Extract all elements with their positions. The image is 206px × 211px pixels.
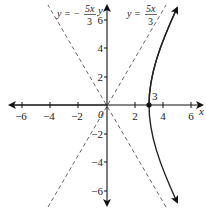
- x-tick-label: 2: [132, 110, 138, 122]
- asym-pos-lhs: y =: [126, 8, 141, 19]
- y-tick-label: −4: [91, 156, 103, 168]
- origin-label: 0: [98, 108, 104, 120]
- x-tick-label: 4: [160, 110, 166, 122]
- y-axis-label: y: [97, 4, 103, 16]
- y-tick-label: −6: [91, 185, 103, 197]
- hyperbola-chart: −6 −4 −2 2 4 6 6 4 2 −2 −4 −6 0 3 x y y …: [0, 0, 206, 211]
- vertex-label: 3: [152, 90, 158, 102]
- chart-svg: −6 −4 −2 2 4 6 6 4 2 −2 −4 −6 0 3 x y y …: [0, 0, 206, 211]
- x-tick-label: 6: [188, 110, 194, 122]
- x-tick-label: −4: [43, 110, 55, 122]
- x-axis-label: x: [198, 105, 204, 117]
- y-tick-label: −2: [91, 128, 103, 140]
- x-tick-label: −6: [15, 110, 27, 122]
- y-tick-label: 4: [98, 42, 104, 54]
- asym-neg-num: 5x: [85, 3, 95, 14]
- y-tick-label: 2: [98, 71, 104, 83]
- asym-pos-num: 5x: [146, 3, 156, 14]
- asym-neg-lhs: y = −: [56, 8, 80, 19]
- asym-neg-den: 3: [87, 16, 92, 27]
- asym-pos-den: 3: [148, 16, 153, 27]
- x-tick-label: −2: [71, 110, 83, 122]
- vertex-point: [146, 102, 151, 107]
